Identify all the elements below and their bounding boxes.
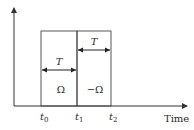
tick-label-t2: t2 xyxy=(109,111,118,124)
tick-label-t1: t1 xyxy=(75,111,84,124)
pulse-timing-diagram: T T Ω −Ω t0 t1 t2 Time xyxy=(0,0,194,130)
value-label-neg-omega: −Ω xyxy=(87,84,104,95)
duration-arrow-first xyxy=(42,68,76,73)
duration-label-second: T xyxy=(91,36,99,47)
value-label-omega: Ω xyxy=(57,84,65,95)
tick-label-t0: t0 xyxy=(40,111,49,124)
duration-arrow-second xyxy=(78,48,110,53)
x-axis-label: Time xyxy=(164,113,189,124)
duration-label-first: T xyxy=(56,56,64,67)
